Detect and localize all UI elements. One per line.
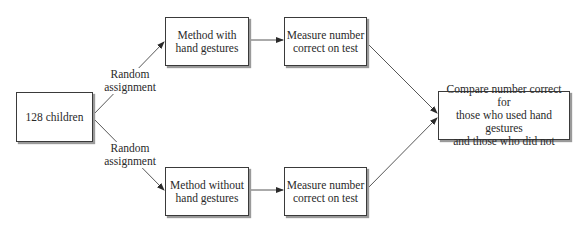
node-text-line: Method without xyxy=(170,179,244,192)
node-measure-top: Measure number correct on test xyxy=(284,17,367,66)
node-text-line: Compare number correct for xyxy=(439,83,569,109)
node-text-line: and those who did not xyxy=(439,135,569,148)
node-method-with-gestures: Method with hand gestures xyxy=(165,17,249,66)
node-text-line: Measure number xyxy=(287,179,365,192)
node-text: 128 children xyxy=(26,111,84,124)
node-measure-bottom: Measure number correct on test xyxy=(284,167,367,216)
edge-label-line: Random xyxy=(100,68,160,81)
node-method-without-gestures: Method without hand gestures xyxy=(165,167,249,216)
edge-label-line: assignment xyxy=(100,81,160,94)
edge-label-line: assignment xyxy=(100,155,160,168)
node-text-line: those who used hand gestures xyxy=(439,109,569,135)
arrow-measure-bottom-to-compare xyxy=(367,118,437,189)
edge-label-line: Random xyxy=(100,142,160,155)
edge-label-lower: Random assignment xyxy=(100,142,160,168)
node-text-line: Method with xyxy=(176,29,239,42)
node-compare: Compare number correct for those who use… xyxy=(438,91,570,140)
edge-label-upper: Random assignment xyxy=(100,68,160,94)
node-128-children: 128 children xyxy=(16,92,93,142)
node-text-line: correct on test xyxy=(287,42,365,55)
node-text-line: hand gestures xyxy=(170,192,244,205)
node-text-line: correct on test xyxy=(287,192,365,205)
node-text-line: hand gestures xyxy=(176,42,239,55)
arrow-measure-top-to-compare xyxy=(367,43,437,113)
node-text-line: Measure number xyxy=(287,29,365,42)
